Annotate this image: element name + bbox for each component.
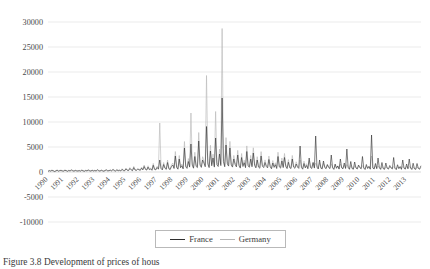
x-axis-tick-label: 2012 — [376, 175, 393, 192]
x-axis-tick-label: 2000 — [189, 175, 206, 192]
x-axis-tick-label: 2004 — [251, 175, 268, 192]
x-axis-tick-label: 2010 — [344, 175, 361, 192]
x-axis-tick-label: 2011 — [360, 175, 377, 192]
y-axis-tick-label: 25000 — [23, 43, 43, 52]
x-axis-tick-label: 2008 — [313, 175, 330, 192]
x-axis-tick-labels: 1990199119921993199419951996199719981999… — [33, 175, 409, 192]
series-lines-group — [48, 29, 421, 172]
x-axis-tick-label: 2002 — [220, 175, 237, 192]
series-line-germany — [48, 29, 421, 172]
y-axis-tick-label: 10000 — [23, 118, 43, 127]
gridlines-group — [48, 22, 421, 222]
x-axis-tick-label: 2005 — [267, 175, 284, 192]
x-axis-tick-label: 2003 — [235, 175, 252, 192]
y-axis-tick-label: -5000 — [24, 193, 43, 202]
x-axis-tick-label: 2009 — [329, 175, 346, 192]
y-axis-tick-label: 30000 — [23, 18, 43, 27]
x-axis-tick-label: 1995 — [111, 175, 128, 192]
legend-label-france: France — [189, 234, 212, 244]
y-axis-tick-label: 5000 — [27, 143, 43, 152]
y-axis-tick-label: 15000 — [23, 93, 43, 102]
legend-entry-france: France — [170, 234, 212, 244]
x-axis-tick-label: 1996 — [126, 175, 143, 192]
x-axis-tick-label: 1994 — [95, 175, 112, 192]
legend-swatch-line-icon — [170, 239, 185, 240]
x-axis-tick-label: 1992 — [64, 175, 81, 192]
x-axis-tick-label: 1997 — [142, 175, 159, 192]
x-axis-tick-label: 1999 — [173, 175, 190, 192]
x-axis-tick-label: 1990 — [33, 175, 50, 192]
x-axis-tick-label: 1993 — [79, 175, 96, 192]
figure-container: 300002500020000150001000050000-5000-1000… — [0, 0, 430, 269]
x-axis-tick-label: 1998 — [157, 175, 174, 192]
x-axis-tick-label: 1991 — [48, 175, 65, 192]
x-axis-tick-label: 2013 — [391, 175, 408, 192]
legend-label-germany: Germany — [239, 234, 271, 244]
y-axis-tick-labels: 300002500020000150001000050000-5000-1000… — [20, 18, 43, 227]
legend-swatch-line-icon — [220, 239, 235, 240]
chart-legend: France Germany — [155, 230, 286, 248]
y-axis-tick-label: -10000 — [20, 218, 43, 227]
y-axis-tick-label: 20000 — [23, 68, 43, 77]
legend-entry-germany: Germany — [220, 234, 271, 244]
figure-caption: Figure 3.8 Development of prices of hous — [3, 257, 427, 267]
price-development-line-chart: 300002500020000150001000050000-5000-1000… — [0, 0, 430, 269]
series-line-france — [48, 98, 421, 172]
x-axis-tick-label: 2001 — [204, 175, 221, 192]
x-axis-tick-label: 2006 — [282, 175, 299, 192]
x-axis-tick-label: 2007 — [298, 175, 315, 192]
